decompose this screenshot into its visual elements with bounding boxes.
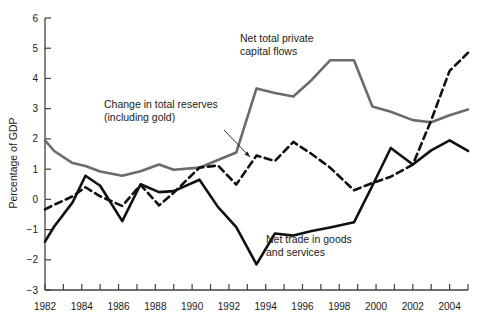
chart-container: −3−2−10123456 19821984198619881990199219… — [0, 0, 479, 326]
annot-private-flows-line1: Net total private — [240, 32, 314, 44]
x-tick-label: 2002 — [402, 301, 425, 312]
y-tick-label: 0 — [32, 194, 38, 205]
x-tick-label: 2004 — [438, 301, 461, 312]
x-tick-label: 1984 — [71, 301, 94, 312]
line-chart: −3−2−10123456 19821984198619881990199219… — [0, 0, 479, 326]
annot-net-trade-line2: and services — [266, 246, 325, 258]
x-tick-label: 1988 — [144, 301, 167, 312]
x-tick-label: 1996 — [291, 301, 314, 312]
x-tick-label: 1992 — [218, 301, 241, 312]
y-tick-label: 6 — [32, 13, 38, 24]
chart-annotations: Net total privatecapital flowsChange in … — [104, 32, 352, 258]
y-tick-label: 4 — [32, 73, 38, 84]
annot-reserves: Change in total reserves(including gold) — [104, 98, 250, 157]
x-tick-label: 2000 — [365, 301, 388, 312]
annot-net-trade: Net trade in goodsand services — [266, 233, 352, 258]
y-tick-label: 5 — [32, 43, 38, 54]
annot-private-flows-line2: capital flows — [240, 45, 297, 57]
series-line-1 — [45, 53, 468, 210]
annot-reserves-line2: (including gold) — [104, 111, 175, 123]
annot-net-trade-line1: Net trade in goods — [266, 233, 352, 245]
x-tick-label: 1990 — [181, 301, 204, 312]
annot-reserves-line1: Change in total reserves — [104, 98, 218, 110]
y-tick-label: 2 — [32, 133, 38, 144]
y-tick-label: −1 — [27, 224, 39, 235]
x-tick-label: 1994 — [255, 301, 278, 312]
y-axis-title: Percentage of GDP — [7, 117, 19, 208]
y-tick-label: −2 — [27, 254, 39, 265]
chart-series-group — [45, 53, 468, 265]
y-tick-label: 1 — [32, 164, 38, 175]
y-axis-tick-labels: −3−2−10123456 — [27, 13, 39, 296]
x-tick-label: 1986 — [107, 301, 130, 312]
x-tick-label: 1982 — [34, 301, 57, 312]
x-axis-tick-labels: 1982198419861988199019921994199619982000… — [34, 301, 461, 312]
series-line-2 — [45, 140, 468, 264]
chart-axes — [45, 18, 468, 290]
y-tick-label: 3 — [32, 103, 38, 114]
x-tick-label: 1998 — [328, 301, 351, 312]
annot-private-flows: Net total privatecapital flows — [240, 32, 314, 57]
y-tick-label: −3 — [27, 285, 39, 296]
